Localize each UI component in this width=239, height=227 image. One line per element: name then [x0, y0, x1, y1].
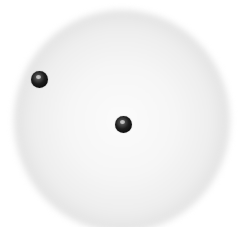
particle-highlight: [36, 75, 41, 79]
central-particle: [115, 116, 132, 133]
particle-highlight: [120, 120, 125, 124]
outer-particle: [31, 71, 48, 88]
